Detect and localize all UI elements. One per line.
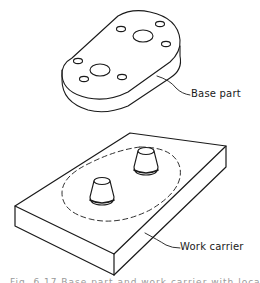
locating-pin [134,148,158,176]
figure-caption: Fig. 6.17 Base part and work carrier wit… [10,276,260,283]
base-part-small-hole [118,74,127,79]
work-carrier-right-side [114,146,226,275]
base-part-small-hole [156,21,165,26]
base-part-small-hole [162,41,171,46]
base-part [62,11,181,112]
base-part-large-hole [133,30,153,42]
base-part-footprint-dashed [62,147,180,221]
work-carrier [15,133,226,275]
base-part-small-hole [74,58,83,63]
work-carrier-front-side [15,206,114,275]
base-part-top-face [62,11,180,99]
work-carrier-label: Work carrier [180,241,244,252]
base-part-label: Base part [191,88,241,99]
base-part-large-hole [90,64,110,76]
base-part-small-hole [117,26,126,31]
locating-pin [90,178,114,206]
base-part-leader-line [157,76,190,95]
base-part-small-hole [80,76,89,81]
